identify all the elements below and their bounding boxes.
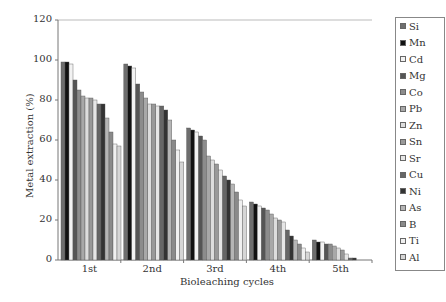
- bar-cu-5th: [348, 258, 352, 260]
- legend-swatch-icon: [400, 23, 406, 29]
- legend: SiMnCdMgCoPbZnSnSrCuNiAsBTiAl: [395, 17, 445, 271]
- y-tick-label: 80: [28, 93, 52, 104]
- legend-swatch-icon: [400, 172, 406, 178]
- bar-cd-3rd: [195, 132, 199, 260]
- legend-swatch-icon: [400, 254, 406, 260]
- bar-zn-3rd: [211, 160, 215, 260]
- bar-al-1st: [117, 146, 121, 260]
- bar-si-1st: [61, 62, 65, 260]
- bar-as-3rd: [231, 184, 235, 260]
- bar-as-2nd: [168, 120, 172, 260]
- legend-swatch-icon: [400, 122, 406, 128]
- bar-cu-4th: [285, 230, 289, 260]
- x-tick-label: 2nd: [132, 263, 172, 274]
- legend-swatch-icon: [400, 205, 406, 211]
- legend-swatch-icon: [400, 106, 406, 112]
- legend-label: Cu: [409, 169, 423, 180]
- legend-item: Ti: [396, 233, 444, 250]
- bar-cd-4th: [257, 206, 261, 260]
- bar-b-1st: [109, 132, 113, 260]
- legend-label: Mg: [409, 70, 426, 81]
- x-tick-label: 1st: [69, 263, 109, 274]
- legend-label: Sr: [409, 153, 421, 164]
- legend-swatch-icon: [400, 73, 406, 79]
- bar-sr-3rd: [219, 170, 223, 260]
- legend-label: Pb: [409, 103, 422, 114]
- bar-ni-1st: [101, 104, 105, 260]
- legend-label: As: [409, 202, 421, 213]
- bar-ni-5th: [352, 258, 356, 260]
- legend-item: Cd: [396, 51, 444, 68]
- legend-swatch-icon: [400, 221, 406, 227]
- legend-item: Mn: [396, 35, 444, 52]
- bar-zn-2nd: [148, 104, 152, 260]
- bar-co-2nd: [140, 92, 144, 260]
- y-tick-label: 0: [28, 253, 52, 264]
- x-tick-label: 3rd: [195, 263, 235, 274]
- bar-si-5th: [312, 240, 316, 260]
- legend-label: Sn: [409, 136, 422, 147]
- bar-co-4th: [265, 210, 269, 260]
- legend-item: Cu: [396, 167, 444, 184]
- bar-pb-2nd: [144, 98, 148, 260]
- bar-chart: [0, 0, 446, 302]
- bar-sr-2nd: [156, 106, 160, 260]
- legend-item: As: [396, 200, 444, 217]
- legend-item: Co: [396, 84, 444, 101]
- bar-mg-1st: [73, 80, 77, 260]
- legend-swatch-icon: [400, 238, 406, 244]
- legend-swatch-icon: [400, 40, 406, 46]
- legend-item: Pb: [396, 101, 444, 118]
- bar-cd-2nd: [132, 68, 136, 260]
- bar-co-5th: [328, 244, 332, 260]
- bar-mn-5th: [316, 242, 320, 260]
- legend-swatch-icon: [400, 89, 406, 95]
- bar-cu-1st: [97, 104, 101, 260]
- bar-al-3rd: [243, 206, 247, 260]
- y-tick-label: 60: [28, 133, 52, 144]
- bar-al-4th: [305, 252, 309, 260]
- bar-ti-3rd: [239, 200, 243, 260]
- bar-co-1st: [77, 90, 81, 260]
- bar-ti-4th: [301, 248, 305, 260]
- legend-item: Sn: [396, 134, 444, 151]
- bar-mn-3rd: [191, 130, 195, 260]
- legend-label: Co: [409, 87, 423, 98]
- legend-item: Si: [396, 18, 444, 35]
- legend-swatch-icon: [400, 155, 406, 161]
- bar-mn-1st: [65, 62, 69, 260]
- bar-ti-2nd: [176, 150, 180, 260]
- bar-si-3rd: [187, 128, 191, 260]
- legend-swatch-icon: [400, 188, 406, 194]
- bar-zn-4th: [273, 218, 277, 260]
- bar-b-4th: [297, 244, 301, 260]
- legend-item: Zn: [396, 117, 444, 134]
- legend-label: Si: [409, 21, 419, 32]
- y-tick-label: 100: [28, 53, 52, 64]
- bar-pb-4th: [269, 214, 273, 260]
- bar-sr-5th: [344, 254, 348, 260]
- bar-b-3rd: [235, 192, 239, 260]
- bar-mg-4th: [261, 208, 265, 260]
- bar-pb-5th: [332, 246, 336, 260]
- bar-ti-1st: [113, 144, 117, 260]
- legend-item: Mg: [396, 68, 444, 85]
- bar-sn-3rd: [215, 164, 219, 260]
- legend-item: Ni: [396, 183, 444, 200]
- legend-label: Mn: [409, 37, 426, 48]
- x-axis-label: Bioleaching cycles: [180, 276, 274, 287]
- y-tick-label: 20: [28, 213, 52, 224]
- legend-swatch-icon: [400, 139, 406, 145]
- bar-cd-1st: [69, 64, 73, 260]
- x-tick-label: 5th: [321, 263, 361, 274]
- bar-ni-3rd: [227, 180, 231, 260]
- legend-label: Cd: [409, 54, 423, 65]
- x-tick-label: 4th: [258, 263, 298, 274]
- bar-as-4th: [293, 240, 297, 260]
- bar-mg-3rd: [199, 136, 203, 260]
- bar-sn-2nd: [152, 104, 156, 260]
- bar-mg-2nd: [136, 84, 140, 260]
- bar-sr-4th: [281, 222, 285, 260]
- legend-label: Ni: [409, 186, 421, 197]
- bar-cu-2nd: [160, 106, 164, 260]
